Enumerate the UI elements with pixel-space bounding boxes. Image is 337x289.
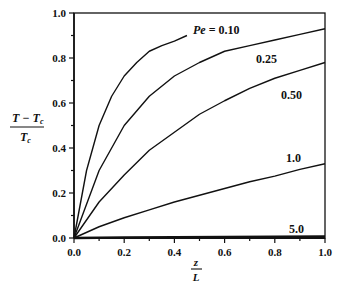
x-tick-label: 0.8 <box>268 246 282 258</box>
y-axis-label: T − Tc Tc <box>10 111 44 145</box>
plot-frame <box>74 13 325 238</box>
y-tick-label: 0.4 <box>52 142 66 154</box>
x-tick-label: 1.0 <box>318 246 332 258</box>
curve-pe1.0 <box>74 164 325 238</box>
x-axis-label: z L <box>191 256 202 283</box>
curve-label-pe-0.10: Pe = 0.10 <box>193 23 240 37</box>
x-tick-label: 0.4 <box>168 246 182 258</box>
curve-label-pe-5.0: 5.0 <box>289 222 304 236</box>
svg-text:L: L <box>192 271 200 283</box>
axis-ticks: 0.00.20.40.60.81.00.00.20.40.60.81.0 <box>52 7 332 258</box>
curves <box>74 29 325 238</box>
svg-text:z: z <box>193 256 199 268</box>
y-tick-label: 0.8 <box>52 52 66 64</box>
curve-label-pe-0.50: 0.50 <box>281 88 302 102</box>
x-tick-label: 0.2 <box>117 246 131 258</box>
y-tick-label: 1.0 <box>52 7 66 19</box>
x-tick-label: 0.0 <box>67 246 81 258</box>
line-chart: 0.00.20.40.60.81.00.00.20.40.60.81.0 Pe … <box>0 0 337 289</box>
x-tick-label: 0.6 <box>218 246 232 258</box>
curve-pe0.25 <box>74 29 325 238</box>
y-tick-label: 0.2 <box>52 187 66 199</box>
curve-pe0.10 <box>74 36 187 239</box>
curve-label-pe-0.25: 0.25 <box>256 52 277 66</box>
svg-text:Tc: Tc <box>20 130 31 145</box>
y-tick-label: 0.6 <box>52 97 66 109</box>
svg-text:T − Tc: T − Tc <box>12 111 44 126</box>
curve-label-pe-1.0: 1.0 <box>286 151 301 165</box>
y-tick-label: 0.0 <box>52 232 66 244</box>
curve-pe5.0 <box>74 237 325 238</box>
